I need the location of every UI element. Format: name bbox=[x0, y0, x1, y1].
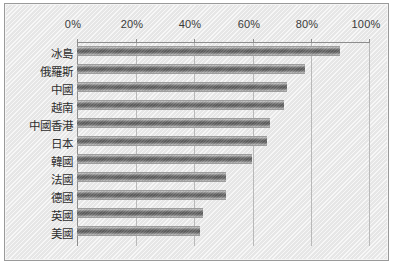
bar[interactable] bbox=[77, 172, 226, 182]
x-tick-label: 100% bbox=[338, 18, 393, 30]
plot-area bbox=[77, 42, 370, 246]
gridline-100 bbox=[369, 42, 370, 246]
tick-mark bbox=[311, 39, 312, 43]
x-tick-label: 40% bbox=[162, 18, 218, 30]
bar[interactable] bbox=[77, 100, 284, 110]
y-tick-label: 冰島 bbox=[11, 45, 73, 61]
bar[interactable] bbox=[77, 64, 305, 74]
top-axis-line bbox=[77, 42, 370, 43]
y-tick-label: 俄羅斯 bbox=[11, 63, 73, 79]
gridline-80 bbox=[311, 42, 312, 246]
bar[interactable] bbox=[77, 190, 226, 200]
y-tick-label: 越南 bbox=[11, 99, 73, 115]
y-tick-label: 韓國 bbox=[11, 153, 73, 169]
tick-mark bbox=[369, 39, 370, 43]
bar[interactable] bbox=[77, 136, 267, 146]
y-tick-label: 英國 bbox=[11, 207, 73, 223]
tick-mark bbox=[253, 39, 254, 43]
y-tick-label: 中國香港 bbox=[11, 117, 73, 133]
y-tick-label: 法國 bbox=[11, 171, 73, 187]
y-tick-label: 德國 bbox=[11, 189, 73, 205]
tick-mark bbox=[77, 39, 78, 43]
bar[interactable] bbox=[77, 46, 340, 56]
bar[interactable] bbox=[77, 82, 287, 92]
bar[interactable] bbox=[77, 208, 203, 218]
y-tick-label: 中國 bbox=[11, 81, 73, 97]
chart-frame: 0% 20% 40% 60% 80% 100% 冰島 俄羅斯 中國 越南 中國香… bbox=[4, 3, 389, 261]
tick-mark bbox=[136, 39, 137, 43]
y-tick-label: 日本 bbox=[11, 135, 73, 151]
x-tick-label: 60% bbox=[221, 18, 277, 30]
y-tick-label: 美國 bbox=[11, 225, 73, 241]
x-tick-label: 80% bbox=[279, 18, 335, 30]
x-tick-label: 0% bbox=[45, 18, 101, 30]
tick-mark bbox=[194, 39, 195, 43]
bar[interactable] bbox=[77, 226, 200, 236]
chart-screenshot: 0% 20% 40% 60% 80% 100% 冰島 俄羅斯 中國 越南 中國香… bbox=[0, 0, 393, 265]
bar[interactable] bbox=[77, 118, 270, 128]
x-tick-label: 20% bbox=[104, 18, 160, 30]
bar[interactable] bbox=[77, 154, 252, 164]
